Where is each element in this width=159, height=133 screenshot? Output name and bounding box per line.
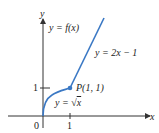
sqrt-label-prefix: y = √ (55, 97, 77, 108)
point-label: P(1, 1) (76, 83, 104, 93)
y-axis-label: y (40, 9, 44, 19)
sqrt-label-var: x (77, 97, 81, 108)
graph-canvas (0, 0, 159, 133)
f-label: y = f(x) (49, 23, 79, 33)
x-axis-label: x (150, 112, 154, 122)
origin-label: 0 (34, 121, 39, 131)
y-tick-label: 1 (33, 83, 38, 93)
x-tick-label: 1 (67, 121, 72, 131)
graph-figure: y x 0 1 1 y = f(x) y = 2x − 1 P(1, 1) y … (0, 0, 159, 133)
line-label: y = 2x − 1 (95, 48, 137, 58)
sqrt-label: y = √x (55, 98, 81, 108)
point-p (68, 86, 73, 91)
